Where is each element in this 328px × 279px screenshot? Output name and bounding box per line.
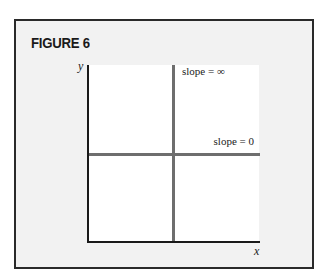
- x-axis: [87, 241, 260, 243]
- figure-title: FIGURE 6: [31, 34, 90, 51]
- x-axis-label: x: [254, 244, 259, 259]
- zero-slope-label: slope = 0: [214, 135, 254, 147]
- y-axis-label: y: [78, 59, 83, 74]
- horizontal-line-zero-slope: [88, 153, 260, 156]
- figure-frame: FIGURE 6 y x slope = ∞ slope = 0: [14, 19, 314, 269]
- infinite-slope-label: slope = ∞: [182, 65, 225, 77]
- y-axis: [87, 65, 89, 243]
